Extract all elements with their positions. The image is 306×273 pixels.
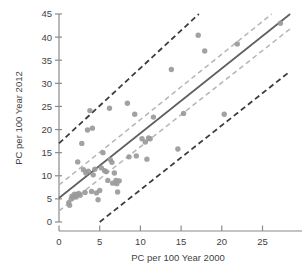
data-point bbox=[144, 156, 149, 161]
data-points-group bbox=[66, 21, 283, 209]
y-axis-tick-label: 0 bbox=[47, 216, 52, 227]
y-axis-tick-label: 15 bbox=[41, 147, 52, 158]
data-point bbox=[92, 167, 97, 172]
y-axis-tick-label: 35 bbox=[41, 55, 52, 66]
data-point bbox=[235, 41, 240, 46]
y-axis-tick-label: 40 bbox=[41, 32, 52, 43]
data-point bbox=[67, 203, 72, 208]
data-point bbox=[86, 168, 91, 173]
data-point bbox=[75, 159, 80, 164]
data-point bbox=[169, 67, 174, 72]
data-point bbox=[109, 160, 114, 165]
data-point bbox=[147, 136, 152, 141]
prediction-band-lower bbox=[100, 71, 290, 222]
data-point bbox=[85, 127, 90, 132]
data-point bbox=[100, 150, 105, 155]
y-axis-tick-label: 5 bbox=[47, 193, 52, 204]
axes-group: 0510152025303540450510152025 bbox=[41, 8, 302, 247]
confidence-band-upper bbox=[59, 14, 272, 185]
data-point bbox=[107, 106, 112, 111]
prediction-band-upper bbox=[59, 14, 199, 143]
x-axis-tick-label: 5 bbox=[97, 236, 102, 247]
data-point bbox=[126, 154, 131, 159]
x-axis-tick-label: 0 bbox=[56, 236, 61, 247]
data-point bbox=[79, 141, 84, 146]
data-point bbox=[132, 112, 137, 117]
confidence-band-lower bbox=[59, 29, 290, 211]
y-axis-tick-label: 25 bbox=[41, 101, 52, 112]
data-point bbox=[90, 125, 95, 130]
y-axis-title: PC per 100 Year 2012 bbox=[13, 71, 24, 165]
x-axis-tick-label: 15 bbox=[176, 236, 187, 247]
data-point bbox=[112, 170, 117, 175]
data-point bbox=[196, 33, 201, 38]
data-point bbox=[104, 169, 109, 174]
data-point bbox=[95, 197, 100, 202]
x-axis-tick-label: 25 bbox=[257, 236, 268, 247]
data-point bbox=[222, 112, 227, 117]
data-point bbox=[181, 111, 186, 116]
y-axis-tick-label: 30 bbox=[41, 78, 52, 89]
data-point bbox=[90, 172, 95, 177]
y-axis-tick-label: 45 bbox=[41, 8, 52, 19]
x-axis-tick-label: 10 bbox=[135, 236, 146, 247]
data-point bbox=[151, 114, 156, 119]
y-axis-tick-label: 10 bbox=[41, 170, 52, 181]
data-point bbox=[134, 153, 139, 158]
data-point bbox=[117, 178, 122, 183]
x-axis-title: PC per 100 Year 2000 bbox=[131, 252, 225, 263]
data-point bbox=[82, 190, 87, 195]
data-point bbox=[125, 101, 130, 106]
data-point bbox=[115, 189, 120, 194]
y-axis-tick-label: 20 bbox=[41, 124, 52, 135]
scatter-chart: 0510152025303540450510152025 PC per 100 … bbox=[0, 0, 306, 273]
data-point bbox=[89, 189, 94, 194]
data-point bbox=[175, 146, 180, 151]
data-point bbox=[87, 108, 92, 113]
data-point bbox=[202, 48, 207, 53]
chart-canvas: 0510152025303540450510152025 PC per 100 … bbox=[0, 0, 306, 273]
data-point bbox=[77, 192, 82, 197]
data-point bbox=[97, 188, 102, 193]
data-point bbox=[278, 21, 283, 26]
data-point bbox=[105, 178, 110, 183]
x-axis-tick-label: 20 bbox=[217, 236, 228, 247]
